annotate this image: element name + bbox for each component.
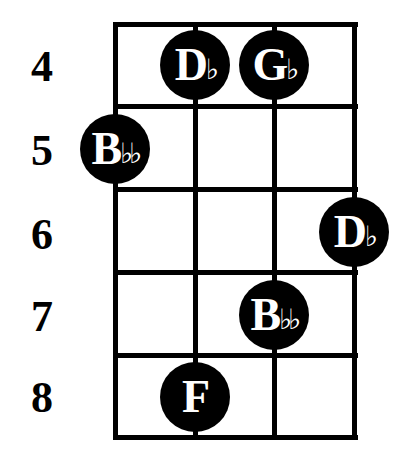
note-letter: B [250, 292, 278, 338]
fret-line [113, 187, 358, 192]
fret-label-7: 7 [22, 295, 62, 339]
double-flat-icon: ♭♭ [120, 140, 138, 168]
string-line-1 [113, 22, 118, 440]
note-letter: B [91, 126, 119, 172]
note-dot: B♭♭ [239, 280, 309, 350]
note-letter: D [334, 209, 364, 255]
fret-line [113, 270, 358, 275]
fret-line [113, 353, 358, 358]
note-dot: G♭ [239, 30, 309, 100]
note-dot: F [160, 362, 230, 432]
fret-label-4: 4 [22, 45, 62, 89]
note-dot: D♭ [160, 30, 230, 100]
fret-line [113, 435, 358, 440]
note-letter: D [175, 42, 205, 88]
fret-label-8: 8 [22, 376, 62, 420]
flat-icon: ♭ [365, 223, 374, 251]
fret-label-5: 5 [22, 129, 62, 173]
note-dot: B♭♭ [80, 114, 150, 184]
note-letter: G [253, 42, 286, 88]
fret-line [113, 104, 358, 109]
flat-icon: ♭ [286, 56, 295, 84]
fret-label-6: 6 [22, 213, 62, 257]
double-flat-icon: ♭♭ [279, 306, 297, 334]
note-dot: D♭ [319, 197, 389, 267]
flat-icon: ♭ [206, 56, 215, 84]
note-letter: F [182, 374, 207, 420]
nut-line [113, 22, 358, 27]
